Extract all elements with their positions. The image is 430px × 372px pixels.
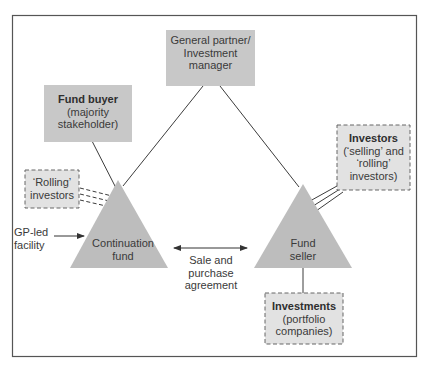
investors-line4: investors) [337,170,410,183]
general-partner-line3: manager [166,59,255,72]
connector-buyer-to-continuation-fund [92,141,117,190]
continuation-fund-label: Continuation fund [78,237,168,262]
investors-line2: (‘selling’ and [337,145,410,158]
investments-label: Investments (portfolio companies) [265,300,343,338]
fund-seller-line2: seller [273,250,333,263]
fund-seller-label: Fund seller [273,237,333,262]
sale-and-purchase-line3: agreement [175,279,247,292]
rolling-investors-line2: investors [25,189,79,202]
general-partner-line1: General partner/ [166,34,255,47]
rolling-investors-label: ‘Rolling’ investors [25,176,79,201]
gp-led-facility-line1: GP-led [14,226,54,239]
continuation-fund-line2: fund [78,250,168,263]
investors-title: Investors [349,132,398,144]
sale-and-purchase-label: Sale and purchase agreement [175,254,247,292]
fund-buyer-label: Fund buyer (majority stakeholder) [44,93,132,131]
general-partner-line2: Investment [166,47,255,60]
connector-gp-to-fund-seller [220,86,299,187]
fund-buyer-title: Fund buyer [58,93,118,105]
fund-seller-line1: Fund [273,237,333,250]
general-partner-label: General partner/ Investment manager [166,34,255,72]
investments-line2: (portfolio [265,313,343,326]
connector-gp-to-continuation-fund [123,86,203,186]
sale-and-purchase-line2: purchase [175,267,247,280]
sale-and-purchase-line1: Sale and [175,254,247,267]
gp-led-facility-line2: facility [14,239,54,252]
fund-buyer-line2: (majority [44,106,132,119]
investors-line3: ‘rolling’ [337,157,410,170]
fund-buyer-line3: stakeholder) [44,118,132,131]
investors-label: Investors (‘selling’ and ‘rolling’ inves… [337,132,410,182]
gp-led-facility-label: GP-led facility [14,226,54,251]
investments-line3: companies) [265,325,343,338]
rolling-investors-line1: ‘Rolling’ [25,176,79,189]
investments-title: Investments [272,300,336,312]
continuation-fund-line1: Continuation [78,237,168,250]
